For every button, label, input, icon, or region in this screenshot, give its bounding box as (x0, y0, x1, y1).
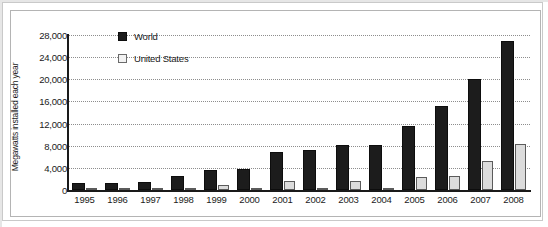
y-tick-label: 28,000 (5, 30, 67, 41)
bar-world (105, 183, 118, 190)
x-tick-label: 2005 (398, 194, 431, 205)
bar-world (270, 152, 283, 190)
bar-world (138, 182, 151, 190)
y-axis-line (67, 34, 69, 191)
bar-group (365, 35, 398, 190)
x-tick-label: 2000 (233, 194, 266, 205)
x-tick-label: 2003 (332, 194, 365, 205)
bar-world (501, 41, 514, 190)
bar-world (171, 176, 184, 190)
y-tick-label: 8,000 (5, 140, 67, 151)
x-tick-label: 1997 (134, 194, 167, 205)
x-tick-label: 2007 (464, 194, 497, 205)
x-axis-line (67, 190, 531, 192)
bar-chart: Megawatts installed each year 04,0008,00… (0, 0, 548, 227)
bar-world (336, 145, 349, 190)
bar-group (68, 35, 101, 190)
x-tick-label: 1996 (101, 194, 134, 205)
y-tick-label: 12,000 (5, 118, 67, 129)
bar-world (468, 79, 481, 190)
y-tick-label: 16,000 (5, 96, 67, 107)
legend-item-united-states: United States (118, 49, 248, 67)
bar-united-states (416, 177, 427, 190)
x-tick-label: 2006 (431, 194, 464, 205)
legend-label-united-states: United States (134, 53, 188, 64)
bar-world (72, 183, 85, 190)
legend-item-world: World (118, 27, 248, 45)
bar-world (435, 106, 448, 190)
bar-united-states (350, 181, 361, 190)
x-tick-label: 2004 (365, 194, 398, 205)
bar-group (464, 35, 497, 190)
bar-world (204, 170, 217, 190)
bar-group (431, 35, 464, 190)
bar-group (266, 35, 299, 190)
bar-group (299, 35, 332, 190)
bar-world (303, 150, 316, 190)
bar-world (369, 145, 382, 190)
y-tick-label: 20,000 (5, 74, 67, 85)
bar-united-states (482, 161, 493, 190)
bar-group (332, 35, 365, 190)
bar-united-states (515, 144, 526, 191)
bar-group (497, 35, 530, 190)
legend-swatch-world-icon (118, 32, 127, 41)
x-tick-label: 2008 (497, 194, 530, 205)
y-axis-tick-labels: 04,0008,00012,00016,00020,00024,00028,00… (0, 0, 67, 227)
chart-legend: World United States (118, 27, 248, 71)
bar-world (402, 126, 415, 190)
y-tick-label: 0 (5, 185, 67, 196)
bar-world (237, 169, 250, 190)
y-tick-label: 24,000 (5, 52, 67, 63)
x-tick-label: 1999 (200, 194, 233, 205)
bar-united-states (284, 181, 295, 190)
x-tick-label: 1998 (167, 194, 200, 205)
x-tick-label: 1995 (68, 194, 101, 205)
x-tick-label: 2002 (299, 194, 332, 205)
legend-swatch-united-states-icon (118, 54, 127, 63)
x-tick-label: 2001 (266, 194, 299, 205)
legend-label-world: World (134, 31, 158, 42)
y-tick-label: 4,000 (5, 162, 67, 173)
bar-united-states (449, 176, 460, 190)
bar-group (398, 35, 431, 190)
